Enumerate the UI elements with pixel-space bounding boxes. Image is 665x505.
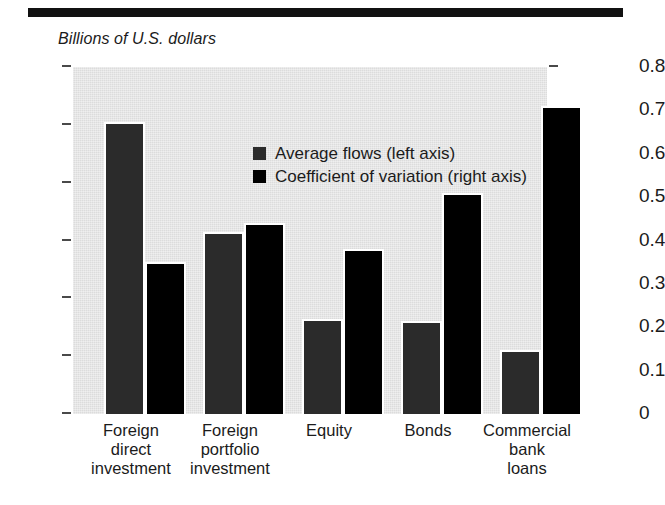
legend-label-average-flows: Average flows (left axis) <box>275 144 455 164</box>
left-axis-tick-60 <box>62 239 71 241</box>
right-axis-label-0.5: 0.5 <box>639 186 665 205</box>
bar-equity-coefficient-of-variation <box>343 249 384 414</box>
bar-commercial-bank-loans-coefficient-of-variation <box>541 106 582 414</box>
right-axis-label-0.3: 0.3 <box>639 273 665 292</box>
left-axis-tick-20 <box>62 354 71 356</box>
right-axis-label-0.8: 0.8 <box>639 56 665 75</box>
right-axis-label-0: 0 <box>639 403 650 422</box>
legend-swatch-icon-average-flows <box>253 147 266 160</box>
right-axis-label-0.7: 0.7 <box>639 99 665 118</box>
left-axis-tick-100 <box>62 123 71 125</box>
category-label-bonds: Bonds <box>371 421 485 440</box>
bar-foreign-direct-investment-average-flows <box>104 122 145 414</box>
bar-foreign-portfolio-investment-average-flows <box>203 232 244 414</box>
bar-foreign-portfolio-investment-coefficient-of-variation <box>244 223 285 414</box>
legend-swatch-icon-coefficient-of-variation <box>253 170 266 183</box>
chart-legend: Average flows (left axis) Coefficient of… <box>253 142 527 188</box>
bar-equity-average-flows <box>302 319 343 414</box>
right-axis-label-0.2: 0.2 <box>639 316 665 335</box>
category-label-foreign-direct-investment: Foreign direct investment <box>74 421 188 478</box>
bar-foreign-direct-investment-coefficient-of-variation <box>145 262 186 414</box>
bar-bonds-coefficient-of-variation <box>442 193 483 414</box>
bar-commercial-bank-loans-average-flows <box>500 350 541 414</box>
legend-item-average-flows: Average flows (left axis) <box>253 142 527 165</box>
right-axis-label-0.1: 0.1 <box>639 360 665 379</box>
left-axis-tick-120 <box>62 65 71 67</box>
left-axis-tick-0 <box>62 412 71 414</box>
right-axis-label-0.4: 0.4 <box>639 230 665 249</box>
category-label-equity: Equity <box>272 421 386 440</box>
right-axis-label-0.6: 0.6 <box>639 143 665 162</box>
units-label: Billions of U.S. dollars <box>58 30 216 48</box>
legend-item-coefficient-of-variation: Coefficient of variation (right axis) <box>253 165 527 188</box>
category-label-foreign-portfolio-investment: Foreign portfolio investment <box>173 421 287 478</box>
right-axis-tick-0.8 <box>549 65 558 67</box>
legend-label-coefficient-of-variation: Coefficient of variation (right axis) <box>275 167 527 187</box>
bar-bonds-average-flows <box>401 321 442 414</box>
left-axis-tick-80 <box>62 181 71 183</box>
header-rule <box>28 8 623 17</box>
category-label-commercial-bank-loans: Commercial bank loans <box>470 421 584 478</box>
left-axis-tick-40 <box>62 296 71 298</box>
chart-plot-area: Average flows (left axis) Coefficient of… <box>73 67 547 414</box>
